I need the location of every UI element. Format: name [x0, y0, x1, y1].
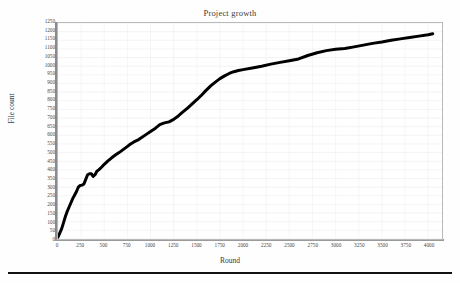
chart-page: Project growth 0501001502002503003504004… — [0, 0, 460, 283]
x-tick-label: 3500 — [377, 243, 387, 248]
x-tick-label: 750 — [123, 243, 131, 248]
x-tick-label: 1500 — [191, 243, 201, 248]
y-tick-label: 50 — [50, 229, 55, 234]
x-tick-label: 1000 — [145, 243, 155, 248]
y-tick-label: 1050 — [45, 54, 55, 59]
y-tick-label: 1150 — [45, 37, 55, 42]
x-tick-label: 250 — [76, 243, 84, 248]
plot-area — [57, 22, 443, 240]
x-tick-label: 2000 — [238, 243, 248, 248]
x-tick-label: 2500 — [284, 243, 294, 248]
y-tick-label: 500 — [47, 150, 55, 155]
x-axis-label: Round — [0, 256, 460, 265]
x-tick-label: 1750 — [215, 243, 225, 248]
x-tick-label: 500 — [100, 243, 108, 248]
y-axis-tick-labels: 0501001502002503003504004505005506006507… — [26, 18, 55, 244]
y-tick-label: 700 — [47, 115, 55, 120]
x-tick-label: 1250 — [168, 243, 178, 248]
y-tick-label: 300 — [47, 185, 55, 190]
y-tick-label: 1100 — [45, 46, 55, 51]
y-tick-label: 450 — [47, 159, 55, 164]
y-tick-label: 200 — [47, 203, 55, 208]
x-tick-label: 3250 — [354, 243, 364, 248]
y-tick-label: 1250 — [45, 19, 55, 24]
y-tick-label: 850 — [47, 89, 55, 94]
y-tick-label: 600 — [47, 133, 55, 138]
x-tick-label: 2750 — [308, 243, 318, 248]
y-tick-label: 150 — [47, 211, 55, 216]
y-tick-label: 250 — [47, 194, 55, 199]
y-tick-label: 750 — [47, 107, 55, 112]
chart-figure: Project growth 0501001502002503003504004… — [0, 0, 460, 268]
page-divider-rule — [8, 272, 452, 274]
x-axis-tick-labels: 0250500750100012501500175020002250250027… — [40, 243, 460, 255]
y-tick-label: 950 — [47, 72, 55, 77]
y-tick-label: 900 — [47, 80, 55, 85]
x-tick-label: 0 — [56, 243, 59, 248]
line-series — [58, 23, 442, 239]
y-tick-label: 550 — [47, 141, 55, 146]
chart-title: Project growth — [0, 8, 460, 18]
y-tick-label: 100 — [47, 220, 55, 225]
y-tick-label: 1000 — [45, 63, 55, 68]
y-tick-label: 400 — [47, 168, 55, 173]
y-tick-label: 650 — [47, 124, 55, 129]
y-axis-label: File count — [7, 74, 16, 144]
y-tick-label: 1200 — [45, 28, 55, 33]
y-tick-label: 0 — [52, 237, 55, 242]
y-tick-label: 350 — [47, 176, 55, 181]
x-tick-label: 3750 — [401, 243, 411, 248]
y-tick-label: 800 — [47, 98, 55, 103]
x-tick-label: 4000 — [424, 243, 434, 248]
x-tick-label: 3000 — [331, 243, 341, 248]
x-tick-label: 2250 — [261, 243, 271, 248]
